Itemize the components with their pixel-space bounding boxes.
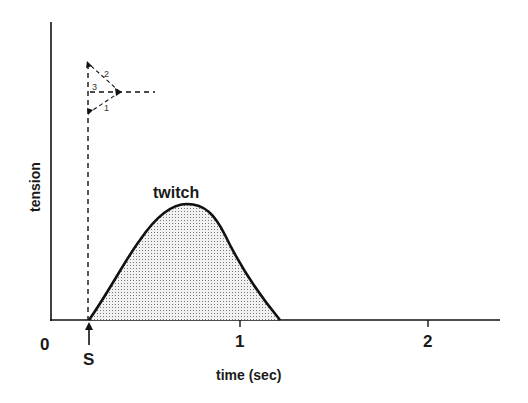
arrowhead-right-icon	[115, 88, 122, 96]
inset-label-2: 2	[104, 69, 109, 79]
x-axis-label: time (sec)	[216, 367, 281, 383]
x-tick-label-1: 1	[235, 332, 244, 351]
y-axis-label: tension	[27, 162, 43, 212]
arrowhead-top-icon	[86, 61, 92, 68]
twitch-label: twitch	[153, 184, 199, 201]
inset-label-3: 3	[92, 82, 97, 92]
stimulus-arrow-icon	[85, 322, 93, 330]
inset-label-1: 1	[104, 103, 109, 113]
arrowhead-bottom-icon	[87, 108, 93, 115]
twitch-diagram: 2 3 1 0 1 2 S time (sec) tension twitch	[0, 0, 528, 403]
stimulus-label: S	[83, 350, 94, 369]
twitch-area	[89, 204, 280, 320]
x-tick-label-2: 2	[423, 332, 432, 351]
x-tick-label-0: 0	[40, 335, 49, 354]
